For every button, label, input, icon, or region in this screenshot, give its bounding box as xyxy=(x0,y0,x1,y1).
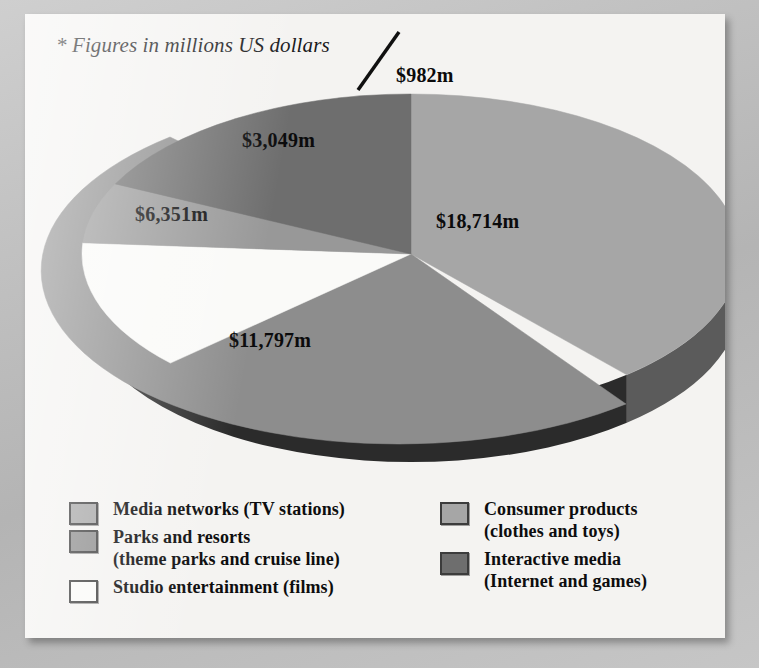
legend-item-media-networks[interactable]: Media networks (TV stations) xyxy=(69,498,399,520)
legend-item-studio-entertainment[interactable]: Studio entertainment (films) xyxy=(69,576,399,598)
legend-item-interactive-media[interactable]: Interactive media (Internet and games) xyxy=(440,548,720,592)
legend-swatch-media-networks xyxy=(69,502,98,525)
legend-label-media-networks: Media networks (TV stations) xyxy=(113,499,345,519)
legend-label-parks-resorts: Parks and resorts (theme parks and cruis… xyxy=(113,527,399,570)
pie-value-label-parks-resorts: $11,797m xyxy=(229,329,311,352)
page-background: * Figures in millions US dollars xyxy=(0,0,759,668)
pie-svg xyxy=(25,14,725,484)
legend-swatch-parks-resorts xyxy=(69,530,98,553)
legend-swatch-consumer-products xyxy=(440,502,469,525)
legend-item-consumer-products[interactable]: Consumer products (clothes and toys) xyxy=(440,498,720,542)
legend-swatch-studio-entertainment xyxy=(69,580,98,603)
chart-card: * Figures in millions US dollars xyxy=(25,14,725,638)
pie-value-label-media-networks: $18,714m xyxy=(436,210,519,233)
pie-value-label-studio-entertainment: $6,351m xyxy=(135,203,208,226)
legend-label-studio-entertainment: Studio entertainment (films) xyxy=(113,577,334,597)
chart-legend: Media networks (TV stations) Parks and r… xyxy=(25,498,725,634)
pie-value-label-interactive-media: $982m xyxy=(396,64,454,87)
pie-value-label-consumer-products: $3,049m xyxy=(242,129,315,152)
legend-column-right: Consumer products (clothes and toys) Int… xyxy=(440,498,720,598)
pie-chart: $18,714m $11,797m $6,351m $3,049m $982m xyxy=(25,14,725,484)
legend-column-left: Media networks (TV stations) Parks and r… xyxy=(69,498,399,604)
leader-line-interactive-media xyxy=(358,32,399,90)
legend-swatch-interactive-media xyxy=(440,552,469,575)
legend-item-parks-resorts[interactable]: Parks and resorts (theme parks and cruis… xyxy=(69,526,399,570)
legend-label-interactive-media: Interactive media (Internet and games) xyxy=(484,549,720,592)
legend-label-consumer-products: Consumer products (clothes and toys) xyxy=(484,499,720,542)
